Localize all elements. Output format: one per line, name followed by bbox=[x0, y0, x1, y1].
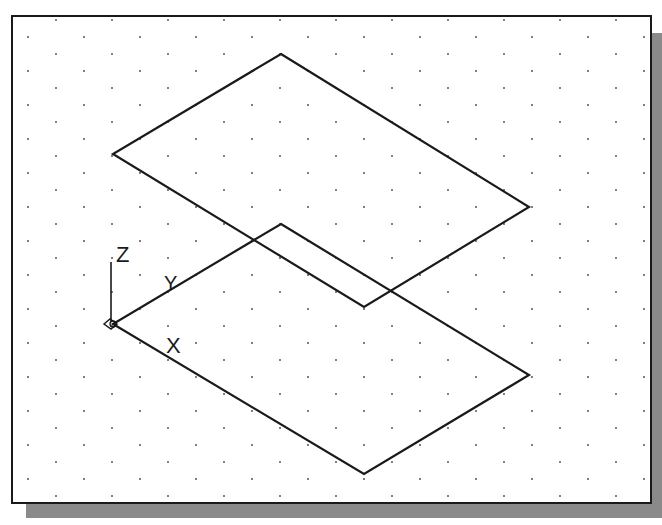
grid-dot bbox=[615, 87, 617, 89]
grid-dot bbox=[307, 444, 309, 446]
grid-dot bbox=[83, 410, 85, 412]
grid-dot bbox=[167, 325, 169, 327]
grid-dot bbox=[615, 257, 617, 259]
grid-dot bbox=[55, 87, 57, 89]
grid-dot bbox=[475, 410, 477, 412]
grid-dot bbox=[335, 53, 337, 55]
grid-dot bbox=[27, 342, 29, 344]
grid-dot bbox=[167, 393, 169, 395]
grid-dot bbox=[55, 427, 57, 429]
grid-dot bbox=[531, 342, 533, 344]
grid-dot bbox=[643, 376, 645, 378]
grid-dot bbox=[615, 325, 617, 327]
grid-dot bbox=[223, 495, 225, 497]
grid-dot bbox=[503, 53, 505, 55]
grid-dot bbox=[111, 53, 113, 55]
grid-dot bbox=[279, 19, 281, 21]
grid-dot bbox=[391, 53, 393, 55]
grid-dot bbox=[139, 478, 141, 480]
grid-dot bbox=[307, 342, 309, 344]
grid-dot bbox=[531, 444, 533, 446]
grid-dot bbox=[391, 393, 393, 395]
grid-dot bbox=[251, 36, 253, 38]
grid-dot bbox=[279, 325, 281, 327]
grid-dot bbox=[111, 19, 113, 21]
grid-dot bbox=[643, 478, 645, 480]
grid-dot bbox=[251, 444, 253, 446]
grid-dot bbox=[503, 87, 505, 89]
grid-dot bbox=[251, 342, 253, 344]
grid-dot bbox=[363, 342, 365, 344]
grid-dot bbox=[447, 19, 449, 21]
grid-dot bbox=[335, 359, 337, 361]
drawing-canvas[interactable]: Z Y X bbox=[0, 0, 662, 525]
grid-dot bbox=[111, 121, 113, 123]
grid-dot bbox=[279, 189, 281, 191]
grid-dot bbox=[27, 138, 29, 140]
grid-dot bbox=[391, 189, 393, 191]
grid-dot bbox=[531, 376, 533, 378]
grid-dot bbox=[503, 155, 505, 157]
grid-dot bbox=[559, 291, 561, 293]
grid-dot bbox=[167, 53, 169, 55]
grid-dot bbox=[27, 274, 29, 276]
grid-dot bbox=[587, 206, 589, 208]
grid-dot bbox=[447, 189, 449, 191]
grid-dot bbox=[83, 206, 85, 208]
grid-dot bbox=[475, 274, 477, 276]
grid-dot bbox=[167, 359, 169, 361]
grid-dot bbox=[419, 342, 421, 344]
grid-dot bbox=[307, 36, 309, 38]
grid-dot bbox=[503, 325, 505, 327]
grid-dot bbox=[279, 495, 281, 497]
grid-dot bbox=[27, 410, 29, 412]
grid-dot bbox=[391, 495, 393, 497]
grid-dot bbox=[447, 53, 449, 55]
grid-dot bbox=[335, 189, 337, 191]
grid-dot bbox=[167, 189, 169, 191]
grid-dot bbox=[587, 138, 589, 140]
grid-dot bbox=[111, 223, 113, 225]
grid-dot bbox=[503, 495, 505, 497]
grid-dot bbox=[279, 393, 281, 395]
grid-dot bbox=[223, 393, 225, 395]
grid-dot bbox=[503, 393, 505, 395]
upper-rhombus-plane[interactable] bbox=[113, 54, 529, 307]
grid-dot bbox=[83, 240, 85, 242]
grid-dot bbox=[279, 461, 281, 463]
grid-dot bbox=[111, 359, 113, 361]
grid-dot bbox=[531, 240, 533, 242]
grid-dot bbox=[27, 376, 29, 378]
grid-dot bbox=[251, 308, 253, 310]
grid-dot bbox=[391, 87, 393, 89]
grid-dot bbox=[531, 70, 533, 72]
grid-dot bbox=[83, 308, 85, 310]
grid-dot bbox=[139, 240, 141, 242]
grid-dot bbox=[475, 308, 477, 310]
grid-dot bbox=[363, 138, 365, 140]
grid-dot bbox=[559, 325, 561, 327]
grid-dot bbox=[139, 36, 141, 38]
grid-dot bbox=[27, 478, 29, 480]
grid-dot bbox=[83, 376, 85, 378]
grid-dot bbox=[419, 206, 421, 208]
grid-dot bbox=[307, 376, 309, 378]
grid-dot bbox=[83, 104, 85, 106]
grid-dot bbox=[55, 121, 57, 123]
grid-dot bbox=[559, 461, 561, 463]
grid-dot bbox=[419, 70, 421, 72]
grid-dot bbox=[223, 461, 225, 463]
grid-dot bbox=[139, 444, 141, 446]
grid-dot bbox=[559, 427, 561, 429]
grid-dot bbox=[111, 189, 113, 191]
grid-dot bbox=[111, 393, 113, 395]
grid-dot bbox=[223, 291, 225, 293]
grid-dot bbox=[363, 206, 365, 208]
grid-dot bbox=[139, 342, 141, 344]
grid-dot bbox=[475, 376, 477, 378]
grid-dot bbox=[419, 240, 421, 242]
grid-dot bbox=[139, 410, 141, 412]
grid-dot bbox=[55, 495, 57, 497]
grid-dot bbox=[111, 495, 113, 497]
grid-dot bbox=[531, 36, 533, 38]
